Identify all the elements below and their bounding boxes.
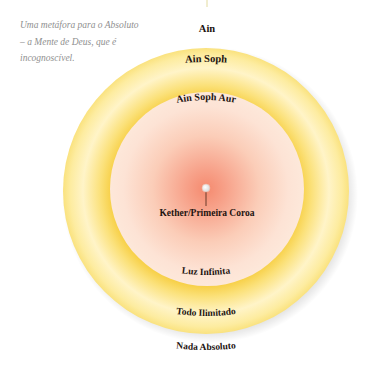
label-ain: Ain bbox=[199, 23, 216, 34]
kether-point-icon bbox=[202, 184, 210, 192]
label-nada-absoluto: Nada Absoluto bbox=[176, 340, 237, 352]
label-ain-soph-text: Ain Soph bbox=[185, 53, 228, 65]
label-kether: Kether/Primeira Coroa bbox=[159, 208, 254, 218]
label-luz-infinita-text: Luz Infinita bbox=[181, 265, 230, 277]
ain-soph-diagram: Ain Ain Soph Ain Soph Aur Kether/Primeir… bbox=[0, 0, 372, 369]
label-ain-soph: Ain Soph bbox=[185, 53, 228, 65]
label-luz-infinita: Luz Infinita bbox=[181, 265, 230, 277]
label-nada-absoluto-text: Nada Absoluto bbox=[176, 340, 237, 352]
